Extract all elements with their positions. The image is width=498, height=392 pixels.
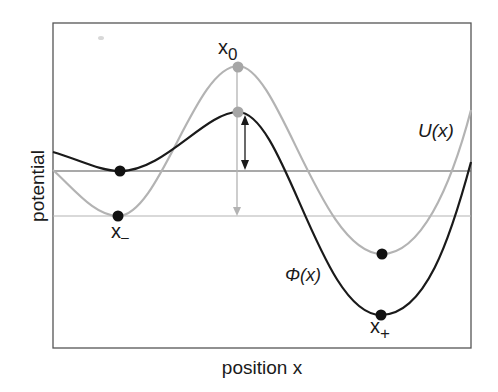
y-axis-label: potential [27, 150, 48, 222]
phi-barrier-arrowhead-up [241, 115, 249, 125]
x-minus-label: x– [111, 220, 129, 245]
phi-barrier-arrowhead-down [241, 160, 249, 170]
phi-min-left-marker [115, 166, 126, 177]
u-curve-label: U(x) [418, 120, 454, 141]
u-barrier-arrowhead [233, 207, 241, 216]
x-axis-label: position x [222, 357, 303, 378]
phi-max-marker [233, 107, 244, 118]
u-min-right-marker [377, 249, 388, 260]
potential-diagram: x0 x– x+ U(x) Φ(x) position x potential [0, 0, 498, 392]
plot-frame [53, 23, 471, 348]
phi-curve-label: Φ(x) [285, 265, 321, 285]
scan-speck [98, 36, 104, 40]
x-zero-label: x0 [218, 36, 237, 64]
